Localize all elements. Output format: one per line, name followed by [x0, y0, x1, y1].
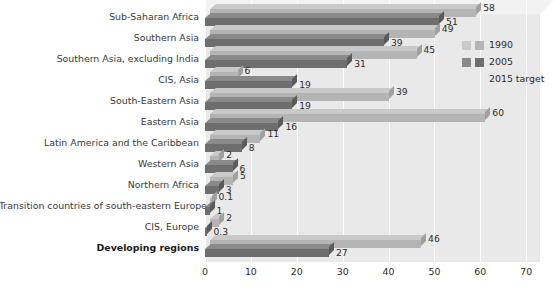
x-tick-label: 10	[245, 266, 257, 277]
bar-2005: 27	[205, 249, 329, 257]
bar-front-face	[205, 249, 329, 257]
bar-value-label: 5	[240, 171, 246, 181]
bar-value-label: 58	[483, 3, 495, 13]
category-label: CIS, Europe	[0, 221, 203, 232]
category-label: Western Asia	[0, 158, 203, 169]
legend-swatch-front-icon	[475, 58, 484, 67]
category-label: CIS, Asia	[0, 74, 203, 85]
legend-swatch-front-icon	[475, 41, 484, 50]
bar-value-label: 31	[354, 59, 366, 69]
legend-item[interactable]: 2015 target	[462, 72, 552, 89]
x-tick-label: 50	[428, 266, 440, 277]
bar-value-label: 39	[396, 87, 408, 97]
x-tick-label: 30	[337, 266, 349, 277]
x-tick-label: 70	[520, 266, 532, 277]
category-label: South-Eastern Asia	[0, 95, 203, 106]
legend-swatch-top-icon	[462, 41, 471, 50]
x-tick-label: 40	[383, 266, 395, 277]
legend-item[interactable]: 1990	[462, 38, 552, 55]
bar-value-label: 16	[285, 122, 297, 132]
x-axis: 010203040506070	[205, 262, 540, 288]
bar-2005: 1	[205, 207, 210, 215]
legend-swatch-top-icon	[462, 58, 471, 67]
bar-value-label: 45	[424, 45, 436, 55]
bar-chart: Sub-Saharan Africa5851Southern Asia4939S…	[0, 0, 554, 288]
bar-value-label: 46	[428, 234, 440, 244]
bar-value-label: 27	[336, 248, 348, 258]
category-label: Developing regions	[0, 242, 203, 253]
bar-front-face	[205, 207, 210, 215]
legend-label: 2015 target	[489, 73, 544, 84]
bar-value-label: 6	[245, 66, 251, 76]
bar-2005: 0.3	[205, 228, 207, 236]
category-label: Southern Asia	[0, 32, 203, 43]
bar-value-label: 2	[226, 213, 232, 223]
legend-label: 2005	[489, 56, 513, 67]
category-label: Sub-Saharan Africa	[0, 11, 203, 22]
bar-value-label: 49	[442, 24, 454, 34]
bar-value-label: 2	[226, 150, 232, 160]
category-label: Northern Africa	[0, 179, 203, 190]
category-label: Southern Asia, excluding India	[0, 53, 203, 64]
category-label: Transition countries of south-eastern Eu…	[0, 200, 203, 211]
legend-label: 1990	[489, 39, 513, 50]
bar-value-label: 8	[249, 143, 255, 153]
legend-item[interactable]: 2005	[462, 55, 552, 72]
bar-value-label: 11	[267, 129, 279, 139]
x-tick-label: 60	[474, 266, 486, 277]
bar-value-label: 60	[492, 108, 504, 118]
chart-legend: 199020052015 target	[462, 38, 552, 89]
x-tick-label: 0	[202, 266, 208, 277]
category-label: Latin America and the Caribbean	[0, 137, 203, 148]
bar-value-label: 0.1	[219, 192, 234, 202]
gridline-50	[434, 0, 435, 262]
bar-front-face	[205, 228, 207, 236]
x-tick-label: 20	[291, 266, 303, 277]
category-label: Eastern Asia	[0, 116, 203, 127]
